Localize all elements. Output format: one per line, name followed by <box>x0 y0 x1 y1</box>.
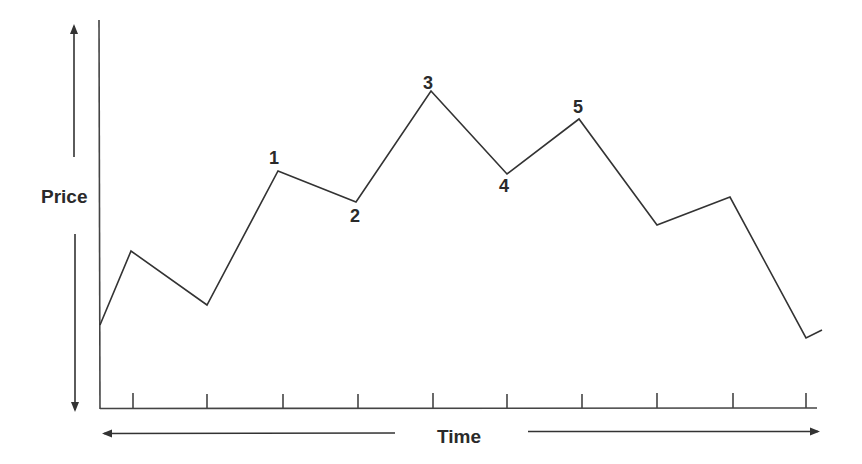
wave-label-1: 1 <box>269 148 279 168</box>
x-axis-left-arrow-icon <box>104 433 395 434</box>
price-line <box>100 91 822 338</box>
wave-label-5: 5 <box>573 97 583 117</box>
x-axis-ticks <box>133 393 806 408</box>
x-axis-line <box>100 408 817 409</box>
wave-label-2: 2 <box>350 206 360 226</box>
x-axis-label: Time <box>437 426 481 447</box>
wave-label-4: 4 <box>499 176 509 196</box>
wave-label-3: 3 <box>423 73 433 93</box>
y-axis-line <box>99 20 100 409</box>
elliott-wave-chart: Price Time 1 2 3 4 5 <box>0 0 862 464</box>
y-axis-label: Price <box>41 186 87 207</box>
